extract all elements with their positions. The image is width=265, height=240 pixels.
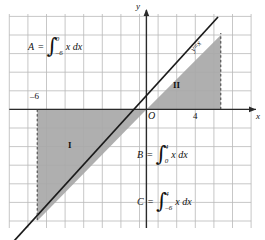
formula-c-lhs: C: [137, 197, 144, 207]
formula-b-integral-group: ∫ 4 0: [156, 144, 168, 165]
formula-a-equals: =: [38, 42, 44, 52]
formula-c-integral-group: ∫ 4 –6: [156, 191, 172, 212]
formula-a-lhs: A: [28, 42, 34, 52]
formula-b-lhs: B: [137, 150, 143, 160]
x-axis-label: x: [256, 111, 260, 121]
origin-label: O: [148, 110, 155, 121]
integral-sign-icon: ∫: [47, 39, 58, 55]
integral-sign-icon: ∫: [156, 194, 167, 210]
y-axis-arrow: [144, 9, 150, 16]
integral-area-figure: y x O –6 4 I II y=x A = ∫ 0 –6 x dx B = …: [0, 0, 265, 240]
formula-c: C = ∫ 4 –6 x dx: [137, 191, 192, 212]
x-axis-arrow: [249, 107, 256, 113]
formula-a: A = ∫ 0 –6 x dx: [28, 36, 82, 57]
formula-c-integrand: x dx: [175, 197, 191, 207]
x-tick-label-negative-six: –6: [30, 91, 39, 101]
formula-a-integrand: x dx: [66, 42, 82, 52]
region-label-two: II: [173, 80, 180, 90]
formula-b-integrand: x dx: [171, 150, 187, 160]
formula-a-integral-group: ∫ 0 –6: [47, 36, 63, 57]
formula-b: B = ∫ 4 0 x dx: [137, 144, 188, 165]
region-label-one: I: [68, 140, 72, 150]
x-tick-label-four: 4: [193, 111, 198, 121]
formula-b-equals: =: [147, 150, 153, 160]
formula-c-equals: =: [148, 197, 154, 207]
integral-sign-icon: ∫: [156, 147, 167, 163]
y-axis-label: y: [136, 1, 140, 11]
